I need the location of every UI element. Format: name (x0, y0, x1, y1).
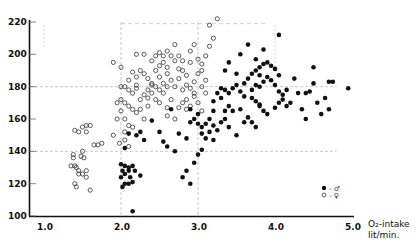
female-data-point (177, 54, 181, 58)
male-data-point (238, 89, 243, 94)
male-data-point (277, 89, 282, 94)
female-data-point (142, 117, 146, 121)
female-data-point (157, 101, 161, 105)
male-data-point (223, 88, 228, 93)
female-data-point (131, 125, 135, 129)
female-data-point (177, 67, 181, 71)
female-data-point (157, 75, 161, 79)
male-data-point (323, 96, 328, 101)
male-data-point (207, 117, 212, 122)
female-data-point (127, 144, 131, 148)
male-data-point (200, 131, 205, 136)
legend-male-marker-icon (322, 186, 326, 190)
y-tick-label: 220 (8, 17, 27, 27)
male-data-point (277, 73, 282, 78)
male-data-point (219, 96, 224, 101)
male-data-point (169, 107, 174, 112)
male-data-point (219, 120, 224, 125)
male-data-point (192, 160, 197, 165)
x-tick-label: 1.0 (37, 222, 53, 232)
male-data-point (134, 133, 139, 138)
male-data-point (277, 33, 282, 38)
female-data-point (177, 77, 181, 81)
male-data-point (227, 125, 232, 130)
male-data-point (331, 80, 336, 85)
y-axis-ticks: 100120140160180200220 (8, 17, 36, 221)
male-data-point (284, 88, 289, 93)
male-data-point (188, 120, 193, 125)
female-data-point (115, 117, 119, 121)
male-data-point (246, 42, 251, 47)
male-data-point (261, 109, 266, 114)
male-data-point (173, 149, 178, 154)
female-data-point (77, 130, 81, 134)
female-data-point (181, 88, 185, 92)
male-data-point (261, 47, 266, 52)
male-data-point (265, 112, 270, 117)
female-data-point (161, 81, 165, 85)
male-data-point (161, 139, 166, 144)
male-data-point (280, 93, 285, 98)
male-data-point (277, 101, 282, 106)
male-data-point (130, 180, 135, 185)
x-tick-label: 5.0 (345, 222, 361, 232)
male-data-point (280, 97, 285, 102)
legend-female-label: - ♀ (329, 192, 339, 200)
female-data-point (173, 43, 177, 47)
female-data-point (134, 52, 138, 56)
male-data-point (128, 175, 133, 180)
male-data-point (288, 101, 293, 106)
male-data-point (284, 104, 289, 109)
legend: - ♂ - ♀ (322, 185, 340, 200)
y-tick-label: 100 (8, 211, 27, 221)
female-data-point (177, 106, 181, 110)
female-data-point (211, 36, 215, 40)
male-data-point (234, 71, 239, 76)
male-data-point (246, 76, 251, 81)
male-data-point (269, 78, 274, 83)
female-data-point (142, 93, 146, 97)
female-data-point (165, 49, 169, 53)
male-data-point (123, 172, 128, 177)
data-points (69, 17, 351, 214)
female-data-point (192, 80, 196, 84)
female-data-point (127, 104, 131, 108)
female-data-point (138, 107, 142, 111)
male-data-point (327, 107, 332, 112)
female-data-point (169, 54, 173, 58)
male-data-point (211, 99, 216, 104)
male-data-point (227, 60, 232, 65)
female-data-point (123, 101, 127, 105)
female-data-point (111, 60, 115, 64)
male-data-point (223, 68, 228, 73)
female-data-point (123, 138, 127, 142)
female-data-point (127, 88, 131, 92)
male-data-point (184, 168, 189, 173)
male-data-point (126, 131, 131, 136)
male-data-point (130, 164, 135, 169)
male-data-point (215, 91, 220, 96)
female-data-point (181, 101, 185, 105)
male-data-point (165, 144, 170, 149)
female-data-point (146, 88, 150, 92)
female-data-point (154, 54, 158, 58)
x-tick-label: 4.0 (268, 222, 284, 232)
female-data-point (188, 60, 192, 64)
male-data-point (142, 138, 147, 143)
female-data-point (84, 169, 88, 173)
male-data-point (133, 168, 138, 173)
male-data-point (250, 71, 255, 76)
female-data-point (161, 54, 165, 58)
female-data-point (131, 91, 135, 95)
female-data-point (127, 78, 131, 82)
male-data-point (319, 112, 324, 117)
female-data-point (200, 68, 204, 72)
female-data-point (157, 51, 161, 55)
y-tick-label: 160 (8, 114, 27, 124)
male-data-point (138, 173, 143, 178)
female-data-point (100, 141, 104, 145)
x-axis-title-line1: O₂-intake (368, 219, 410, 229)
female-data-point (131, 107, 135, 111)
male-data-point (257, 65, 262, 70)
male-data-point (250, 88, 255, 93)
